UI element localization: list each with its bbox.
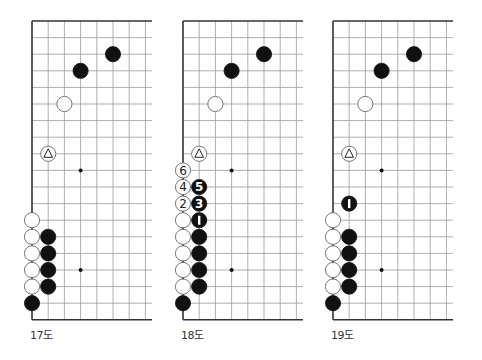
star-point xyxy=(380,168,384,172)
white-stone xyxy=(175,279,190,294)
star-point xyxy=(230,168,234,172)
white-stone xyxy=(175,213,190,228)
black-stone xyxy=(41,229,56,244)
black-stone xyxy=(105,47,120,62)
go-diagram-18: 64523 18도 xyxy=(151,0,311,360)
diagram-caption: 18도 xyxy=(181,326,204,342)
white-stone xyxy=(325,246,340,261)
star-point xyxy=(230,268,234,272)
black-stone xyxy=(192,279,207,294)
black-stone xyxy=(192,262,207,277)
black-stone xyxy=(41,262,56,277)
move-number: 6 xyxy=(179,164,187,178)
black-stone xyxy=(192,246,207,261)
black-stone xyxy=(342,279,357,294)
white-stone xyxy=(208,96,223,111)
move-number: 5 xyxy=(195,180,203,194)
move-number: 2 xyxy=(179,197,187,211)
black-stone xyxy=(342,246,357,261)
move-number: 3 xyxy=(195,197,203,211)
white-stone xyxy=(358,96,373,111)
black-stone xyxy=(256,47,271,62)
go-diagram-17: 17도 xyxy=(0,0,160,360)
star-point xyxy=(380,268,384,272)
white-stone xyxy=(325,262,340,277)
white-stone xyxy=(24,279,39,294)
star-point xyxy=(79,168,83,172)
go-board-grid xyxy=(0,0,160,330)
go-board-grid: 64523 xyxy=(151,0,311,330)
black-stone xyxy=(325,296,340,311)
black-stone xyxy=(24,296,39,311)
diagram-caption: 17도 xyxy=(30,326,53,342)
white-stone xyxy=(57,96,72,111)
move-number-1 xyxy=(348,199,350,208)
go-diagram-19: 19도 xyxy=(301,0,461,360)
white-stone xyxy=(175,229,190,244)
diagram-caption: 19도 xyxy=(331,326,354,342)
black-stone xyxy=(41,279,56,294)
black-stone xyxy=(192,229,207,244)
go-board-grid xyxy=(301,0,461,330)
black-stone xyxy=(175,296,190,311)
move-number-1 xyxy=(198,216,200,225)
star-point xyxy=(79,268,83,272)
black-stone xyxy=(374,63,389,78)
black-stone xyxy=(342,229,357,244)
white-stone xyxy=(325,229,340,244)
white-stone xyxy=(24,262,39,277)
white-stone xyxy=(325,213,340,228)
black-stone xyxy=(342,262,357,277)
black-stone xyxy=(406,47,421,62)
white-stone xyxy=(175,262,190,277)
white-stone xyxy=(24,213,39,228)
black-stone xyxy=(73,63,88,78)
white-stone xyxy=(24,246,39,261)
white-stone xyxy=(325,279,340,294)
black-stone xyxy=(41,246,56,261)
white-stone xyxy=(175,246,190,261)
white-stone xyxy=(24,229,39,244)
move-number: 4 xyxy=(179,180,187,194)
black-stone xyxy=(224,63,239,78)
